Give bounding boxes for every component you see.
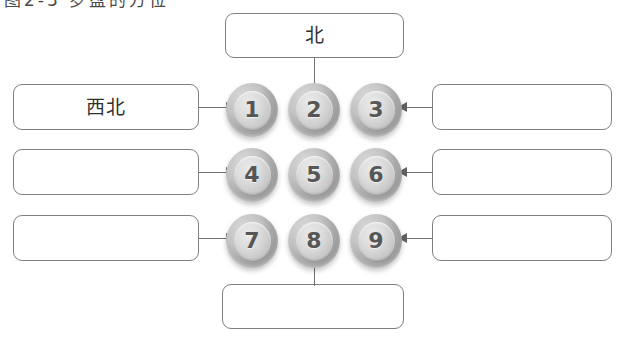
grid-cell-8-number: 8 [306,230,321,252]
grid-cell-9-number: 9 [368,230,383,252]
grid-cell-6[interactable]: 6 [350,148,402,202]
grid-cell-3[interactable]: 3 [350,83,402,137]
grid-cell-7-inner: 7 [234,222,271,261]
grid-cell-8-inner: 8 [296,222,333,261]
connector-left-1-to-1 [199,107,229,108]
diagram-canvas: 图2-3 罗盘的方位 北 西北 [0,0,622,341]
callout-box-left-1-label: 西北 [86,98,126,117]
callout-box-top[interactable]: 北 [225,13,404,58]
callout-box-right-3[interactable] [432,215,612,261]
callout-box-right-1[interactable] [432,84,612,130]
callout-box-top-label: 北 [305,26,325,45]
callout-box-left-1[interactable]: 西北 [13,84,199,130]
connector-right-1-to-3 [404,107,433,108]
grid-cell-7-number: 7 [244,230,259,252]
grid-cell-1[interactable]: 1 [226,83,278,137]
grid-cell-3-inner: 3 [358,91,395,130]
grid-cell-5[interactable]: 5 [288,148,340,202]
grid-cell-9-inner: 9 [358,222,395,261]
grid-cell-5-number: 5 [306,164,321,186]
grid-cell-2[interactable]: 2 [288,83,340,137]
connector-left-3-to-7 [199,238,229,239]
grid-cell-4-inner: 4 [234,156,271,195]
grid-cell-5-inner: 5 [296,156,333,195]
callout-box-bottom[interactable] [222,284,404,329]
grid-cell-6-inner: 6 [358,156,395,195]
grid-cell-4[interactable]: 4 [226,148,278,202]
grid-cell-1-number: 1 [244,99,259,121]
callout-box-right-2[interactable] [432,149,612,195]
connector-left-2-to-4 [199,172,229,173]
callout-box-left-3[interactable] [13,215,199,261]
grid-cell-1-inner: 1 [234,91,271,130]
connector-right-2-to-6 [404,172,433,173]
grid-cell-9[interactable]: 9 [350,214,402,268]
callout-box-left-2[interactable] [13,149,199,195]
connector-right-3-to-9 [404,238,433,239]
grid-cell-2-number: 2 [306,99,321,121]
grid-cell-4-number: 4 [244,164,259,186]
grid-cell-2-inner: 2 [296,91,333,130]
grid-cell-7[interactable]: 7 [226,214,278,268]
grid-cell-6-number: 6 [368,164,383,186]
cut-off-header-text: 图2-3 罗盘的方位 [4,0,169,11]
grid-cell-3-number: 3 [368,99,383,121]
grid-cell-8[interactable]: 8 [288,214,340,268]
